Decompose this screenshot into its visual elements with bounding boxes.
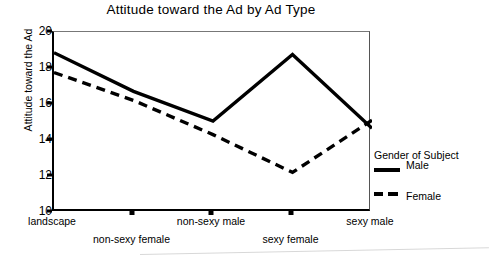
- scan-artifact-line: [140, 247, 489, 255]
- y-tick-label: 12: [12, 168, 52, 182]
- x-tick-mark: [209, 211, 214, 215]
- chart-legend: Gender of Subject Male Female: [374, 150, 489, 210]
- x-axis-label: sexy female: [262, 233, 318, 245]
- legend-entry-male[interactable]: Male: [374, 162, 489, 186]
- y-tick-label: 14: [12, 132, 52, 146]
- x-axis-label: non-sexy female: [93, 233, 170, 245]
- plot-area: [52, 31, 370, 211]
- legend-label-male: Male: [406, 159, 429, 171]
- y-tick-label: 16: [12, 96, 52, 110]
- y-tick-label: 20: [12, 24, 52, 38]
- legend-title: Gender of Subject: [374, 150, 489, 162]
- y-axis-ticks: 20 18 16 14 12 10: [0, 31, 52, 211]
- x-axis-label: non-sexy male: [177, 215, 245, 227]
- legend-label-female: Female: [406, 190, 441, 202]
- legend-swatch-dashed-icon: [374, 192, 400, 196]
- x-axis-label: landscape: [28, 215, 76, 227]
- chart-root: Attitude toward the Ad by Ad Type Attitu…: [0, 0, 489, 264]
- y-tick-label: 18: [12, 60, 52, 74]
- x-axis-label: sexy male: [346, 215, 393, 227]
- x-tick-mark: [129, 211, 134, 215]
- chart-title: Attitude toward the Ad by Ad Type: [52, 2, 370, 17]
- plot-lines: [54, 32, 372, 212]
- x-tick-mark: [288, 211, 293, 215]
- legend-swatch-solid-icon: [374, 168, 400, 172]
- legend-entry-female[interactable]: Female: [374, 186, 489, 210]
